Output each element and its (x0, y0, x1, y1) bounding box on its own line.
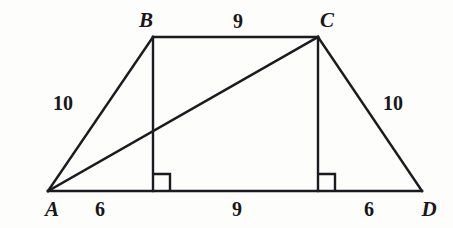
vertex-label-c: C (320, 10, 334, 31)
measure-label-length-foot-b-to-foot-c: 9 (232, 199, 242, 219)
right-angle-markers-group (153, 174, 335, 191)
vertex-label-d: D (421, 199, 436, 220)
side-ab (48, 37, 153, 191)
right-angle-foot-b (153, 174, 170, 191)
segments-group (48, 37, 422, 191)
measure-label-length-cd: 10 (383, 93, 403, 113)
right-angle-foot-c (318, 174, 335, 191)
diagonal-ac (48, 37, 318, 191)
measure-label-length-foot-c-to-d: 6 (364, 199, 374, 219)
measure-label-length-bc: 9 (233, 11, 243, 31)
geometry-canvas (0, 0, 453, 228)
measure-label-length-ab: 10 (53, 93, 73, 113)
measure-label-length-a-to-foot-b: 6 (95, 199, 105, 219)
vertex-label-b: B (139, 10, 153, 31)
side-cd (318, 37, 422, 191)
geometry-figure: ABCD10910696 (0, 0, 453, 228)
vertex-label-a: A (45, 199, 59, 220)
